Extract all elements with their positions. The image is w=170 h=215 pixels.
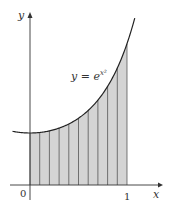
y-axis-arrow-icon [28, 12, 33, 18]
y-axis-label: y [17, 9, 25, 22]
x-tick-1-label: 1 [124, 191, 130, 202]
x-axis-label: x [153, 188, 160, 201]
integral-diagram: y x 0 1 y = ex² [0, 0, 170, 215]
shaded-strips [30, 44, 127, 185]
curve-label: y = ex² [70, 69, 107, 83]
x-axis-arrow-icon [158, 183, 163, 188]
origin-label: 0 [20, 188, 26, 199]
